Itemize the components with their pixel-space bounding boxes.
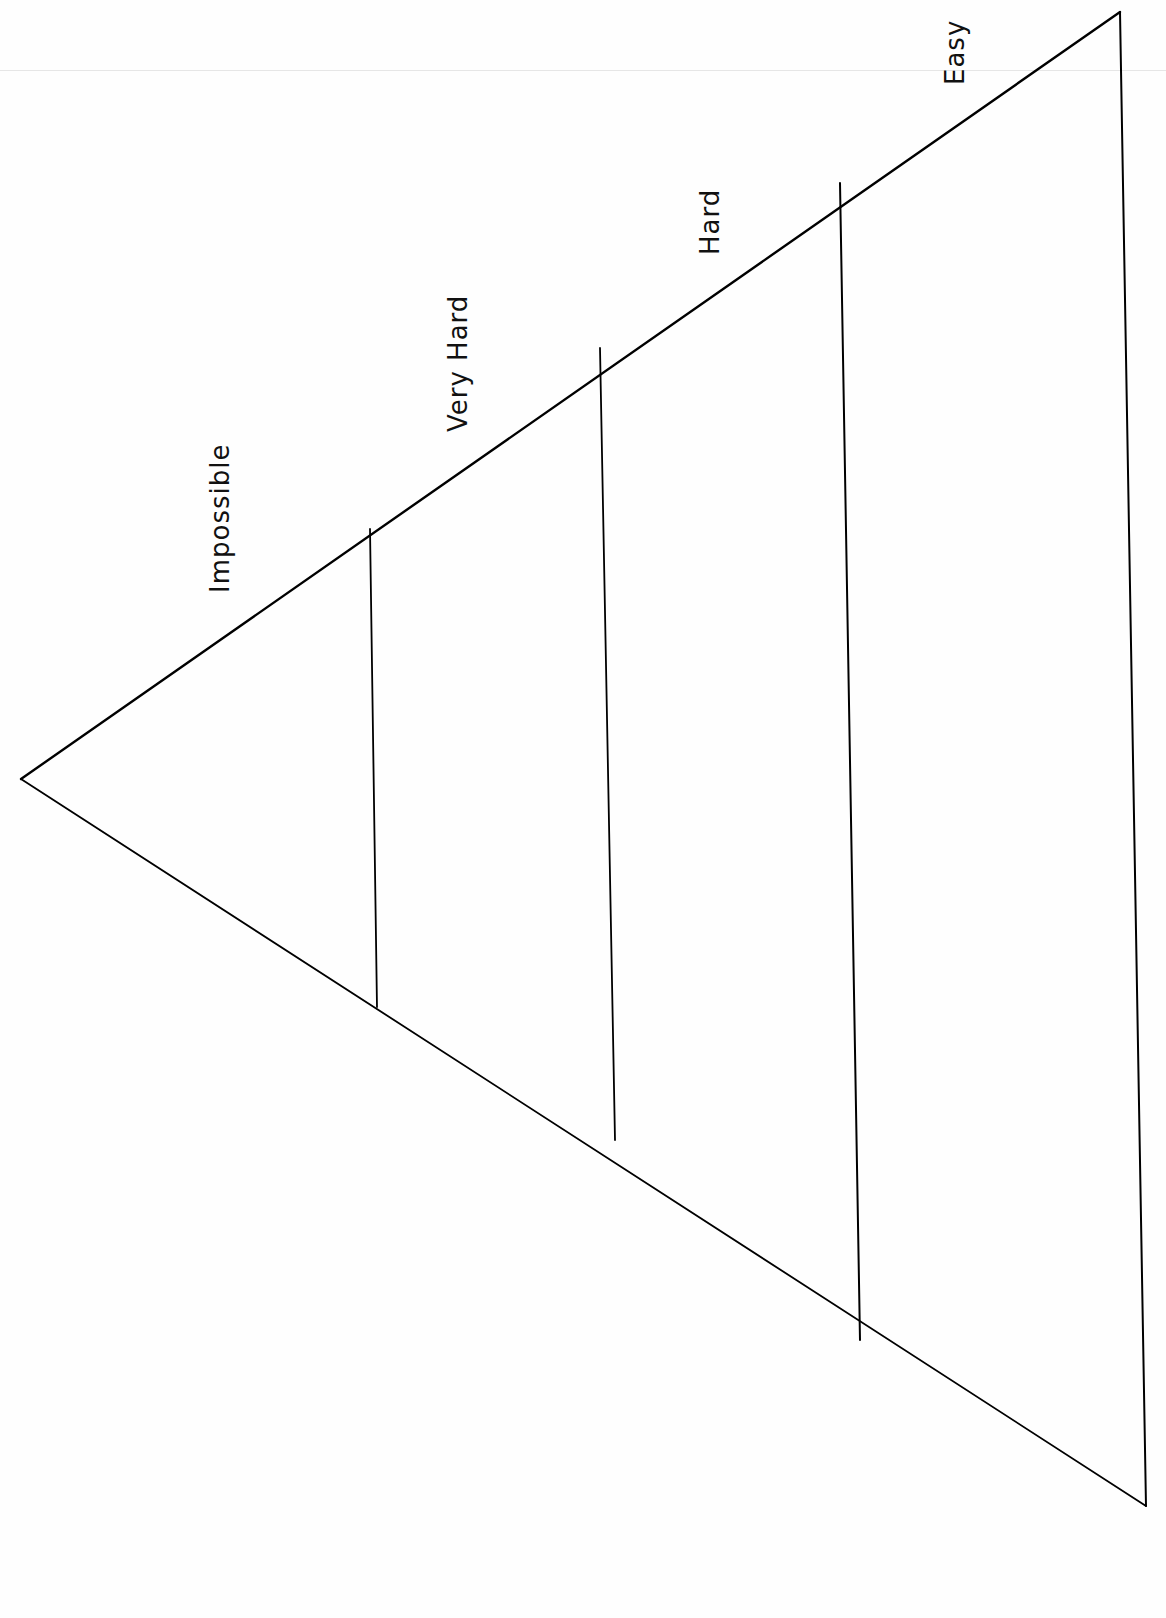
- pyramid-lower-edge: [21, 779, 1146, 1506]
- pyramid-upper-edge: [21, 12, 1120, 779]
- pyramid-base: [1120, 12, 1146, 1506]
- level-label-impossible: Impossible: [205, 444, 235, 593]
- level-label-hard: Hard: [695, 189, 725, 255]
- divider-hard-easy: [840, 183, 860, 1340]
- divider-impossible-veryhard: [370, 529, 377, 1007]
- level-label-easy: Easy: [940, 20, 970, 85]
- worksheet-page: Impossible Very Hard Hard Easy: [0, 0, 1166, 1618]
- difficulty-pyramid: [0, 0, 1166, 1618]
- level-label-very-hard: Very Hard: [443, 295, 473, 432]
- divider-veryhard-hard: [600, 348, 615, 1140]
